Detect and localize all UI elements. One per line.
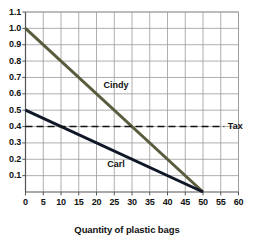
- series-label-cindy: Cindy: [104, 80, 129, 90]
- y-tick-label: 0.2: [0, 154, 21, 164]
- grid-lines: [26, 12, 239, 192]
- x-axis-title: Quantity of plastic bags: [0, 224, 254, 235]
- y-tick-label: 1.0: [0, 23, 21, 33]
- y-tick-label: 0.6: [0, 88, 21, 98]
- chart-figure: 0.10.20.30.40.50.60.70.80.91.01.1 051015…: [0, 0, 254, 243]
- y-tick-label: 0.1: [0, 170, 21, 180]
- x-tick-label: 60: [228, 197, 250, 207]
- y-tick-label: 0.7: [0, 72, 21, 82]
- y-tick-label: 0.3: [0, 137, 21, 147]
- y-tick-label: 0.5: [0, 105, 21, 115]
- series-label-carl: Carl: [107, 159, 125, 169]
- y-tick-label: 0.4: [0, 121, 21, 131]
- tick-marks: [22, 12, 238, 195]
- series-label-tax: Tax: [228, 121, 243, 131]
- y-tick-label: 0.8: [0, 56, 21, 66]
- y-tick-label: 1.1: [0, 7, 21, 17]
- y-tick-label: 0.9: [0, 39, 21, 49]
